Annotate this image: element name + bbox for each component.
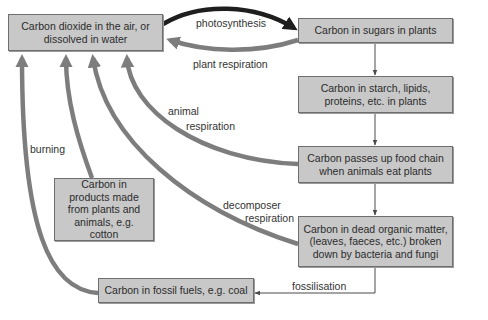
products-box-text: Carbon in products made from plants and … bbox=[61, 178, 147, 241]
fossil-box: Carbon in fossil fuels, e.g. coal bbox=[98, 278, 254, 303]
burning-arrow bbox=[22, 58, 98, 293]
co2-box: Carbon dioxide in the air, or dissolved … bbox=[8, 14, 163, 51]
starch-box-text: Carbon in starch, lipids, proteins, etc.… bbox=[317, 82, 434, 107]
fossil-box-text: Carbon in fossil fuels, e.g. coal bbox=[105, 284, 248, 297]
products-to-co2-arrow bbox=[66, 58, 92, 178]
plant-respiration-arrow bbox=[170, 40, 298, 50]
photosynthesis-label: photosynthesis bbox=[196, 17, 266, 30]
decomposer-label-line2: respiration bbox=[245, 212, 294, 225]
decomposer-label-line1: decomposer bbox=[223, 199, 281, 212]
food-chain-box: Carbon passes up food chain when animals… bbox=[298, 146, 453, 183]
sugars-box-text: Carbon in sugars in plants bbox=[315, 24, 437, 37]
products-box: Carbon in products made from plants and … bbox=[54, 178, 154, 241]
sugars-box: Carbon in sugars in plants bbox=[298, 18, 453, 43]
dead-matter-box-text: Carbon in dead organic matter, (leaves, … bbox=[303, 223, 448, 261]
fossilisation-label: fossilisation bbox=[292, 280, 346, 293]
animal-respiration-label-line2: respiration bbox=[186, 120, 235, 133]
dead-matter-box: Carbon in dead organic matter, (leaves, … bbox=[298, 216, 453, 267]
plant-respiration-label: plant respiration bbox=[193, 58, 268, 71]
animal-respiration-label-line1: animal bbox=[168, 105, 199, 118]
animal-respiration-arrow bbox=[127, 58, 298, 164]
burning-label: burning bbox=[30, 143, 65, 156]
food-chain-box-text: Carbon passes up food chain when animals… bbox=[305, 152, 446, 177]
co2-box-text: Carbon dioxide in the air, or dissolved … bbox=[17, 20, 154, 45]
starch-box: Carbon in starch, lipids, proteins, etc.… bbox=[298, 76, 453, 113]
